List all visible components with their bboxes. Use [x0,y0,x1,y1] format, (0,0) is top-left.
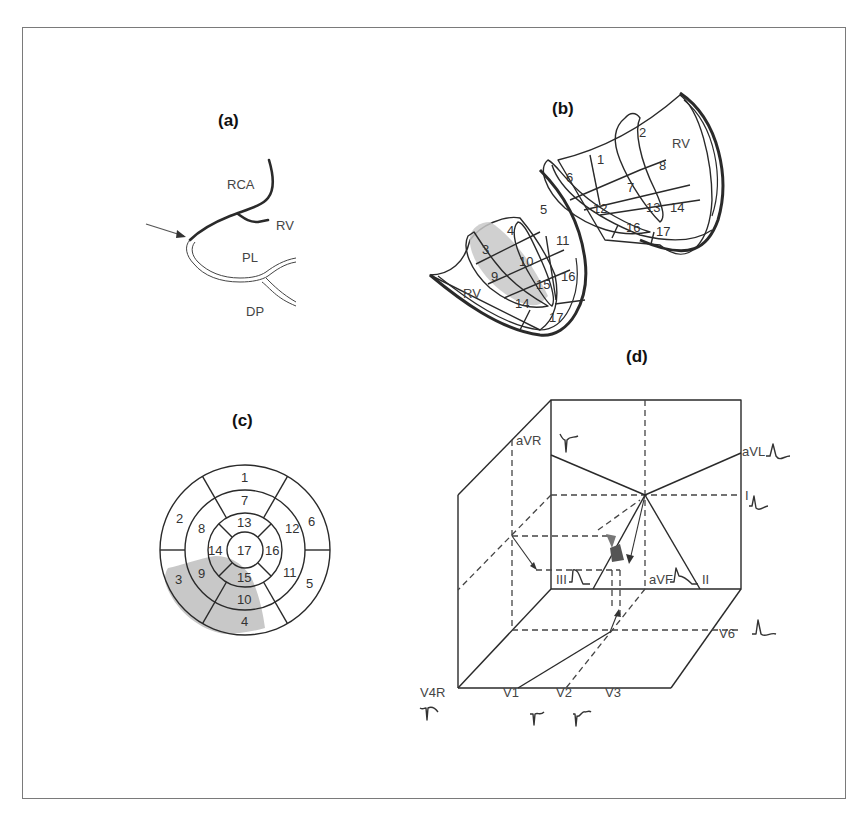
ecg-i-waveform-icon [749,496,768,509]
b-rv-label-left: RV [463,286,481,301]
rv-branch-vessel [238,214,268,222]
c-seg-7: 7 [241,493,248,508]
b-seg-5: 5 [540,202,547,217]
c-seg-9: 9 [198,566,205,581]
ecg-avl-waveform-icon [766,444,790,459]
b-seg-14-left: 14 [515,296,529,311]
rca-vessel [190,160,273,240]
c-seg-13: 13 [237,515,251,530]
lead-label-iii: III [556,572,567,587]
b-seg-16-left: 16 [561,269,575,284]
c-seg-16: 16 [265,543,279,558]
panel-c: (c) 1 6 5 4 3 2 7 12 11 10 9 8 13 [160,411,330,635]
c-seg-8: 8 [198,521,205,536]
figure-canvas: (a) RCA RV PL DP (b) [0,0,865,818]
lead-label-avl: aVL [742,444,765,459]
c-seg-15: 15 [237,570,251,585]
vector-arrow-1-head-icon [626,554,634,564]
cube-edges [458,400,741,688]
b-seg-11: 11 [556,233,570,248]
b-seg-17-left: 17 [549,310,563,325]
panel-b-label: (b) [552,99,574,118]
lead-label-avf: aVF [649,572,673,587]
c-seg-14: 14 [208,543,222,558]
c-seg-10: 10 [237,592,251,607]
c-seg-4: 4 [241,614,248,629]
b-seg-17-right: 17 [656,224,670,239]
b-seg-9: 9 [491,269,498,284]
ecg-v1-waveform-icon [530,712,544,725]
ecg-avf-waveform-icon [670,568,698,584]
panel-c-label: (c) [232,411,253,430]
vessel-label-rv: RV [276,218,294,233]
b-seg-12: 12 [593,201,607,216]
b-seg-4: 4 [507,223,514,238]
lead-label-v2: V2 [556,685,572,700]
b-seg-14-right: 14 [670,200,684,215]
b-seg-1: 1 [597,152,604,167]
lead-label-v4r: V4R [420,685,445,700]
b-seg-8: 8 [659,158,666,173]
lead-label-v1: V1 [503,685,519,700]
lead-label-i: I [745,488,749,503]
arrow-head-icon [176,230,186,238]
c-seg-3: 3 [175,572,182,587]
lead-label-avr: aVR [516,433,541,448]
c-seg-5: 5 [306,576,313,591]
vessel-label-pl: PL [242,250,258,265]
panel-d-label: (d) [626,347,648,366]
c-seg-11: 11 [283,565,297,580]
panel-a: (a) RCA RV PL DP [146,111,296,319]
b-seg-15: 15 [536,277,550,292]
ecg-iii-waveform-icon [569,570,590,584]
c-seg-17: 17 [237,543,251,558]
b-seg-7: 7 [627,180,634,195]
lead-label-ii: II [702,572,709,587]
vector-marker-upper [606,534,616,548]
panel-b: (b) 3 4 5 9 10 11 14 15 16 [430,93,723,335]
c-seg-12: 12 [285,521,299,536]
c-seg-6: 6 [308,514,315,529]
cube-hidden-edges [458,400,741,688]
b-seg-6: 6 [566,170,573,185]
ecg-v4r-waveform-icon [420,707,438,720]
ecg-v6-waveform-icon [752,620,776,635]
b-seg-3: 3 [482,242,489,257]
lead-label-v6: V6 [719,626,735,641]
c-seg-2: 2 [176,511,183,526]
dp-branch-outer [262,282,296,306]
vessel-label-rca: RCA [227,177,255,192]
vector-arrow-2 [512,536,535,568]
ecg-v2-waveform-icon [573,711,591,726]
b-seg-13: 13 [646,200,660,215]
b-rv-label-right: RV [672,136,690,151]
panel-a-label: (a) [218,111,239,130]
b-seg-2: 2 [639,125,646,140]
c-seg-1: 1 [241,470,248,485]
panel-d: (d) [420,347,790,726]
b-seg-16-right: 16 [626,220,640,235]
vessel-label-dp: DP [246,304,264,319]
b-seg-10: 10 [519,254,533,269]
ecg-avr-waveform-icon [560,434,578,452]
lead-label-v3: V3 [605,685,621,700]
